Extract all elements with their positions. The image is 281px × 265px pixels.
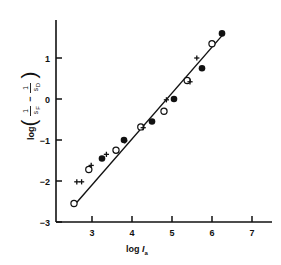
fraction-2-denominator-sub: D [35,82,41,87]
y-tick-label-1: 1 [45,54,50,64]
data-point-filled-circle [199,65,206,72]
data-point-filled-circle [149,118,156,125]
scatter-plot-svg: 1 0 −1 −2 −3 3 4 5 6 7 log Ia [0,0,281,265]
x-tick-label-5: 5 [169,228,174,238]
chart-figure: 1 0 −1 −2 −3 3 4 5 6 7 log Ia [0,0,281,265]
data-point-open-circle [161,108,167,114]
y-tick-label-0: 0 [45,95,50,105]
y-axis-title-open-paren: ( [17,120,40,127]
data-point-filled-circle [99,155,106,162]
data-point-filled-circle [219,30,226,37]
x-tick-label-7: 7 [249,228,254,238]
y-axis-title-log: log [26,127,36,141]
data-point-filled-circle [121,137,128,144]
y-tick-label-neg1: −1 [40,136,50,146]
y-tick-label-neg2: −2 [40,177,50,187]
data-point-filled-circle [171,96,178,103]
data-point-open-circle [113,147,119,153]
fraction-2-numerator: 1 [22,86,29,90]
data-point-open-circle [209,41,215,47]
y-axis-title-minus: − [25,96,35,101]
y-axis-title-close-paren: ) [17,72,40,79]
x-tick-label-4: 4 [129,228,134,238]
fraction-1-denominator-sub: F [35,106,41,110]
x-tick-label-6: 6 [209,228,214,238]
data-point-open-circle [71,200,77,206]
y-tick-label-neg3: −3 [40,218,50,228]
x-axis-title-log: log [126,244,140,254]
x-tick-label-3: 3 [89,228,94,238]
fraction-1-numerator: 1 [22,109,29,113]
